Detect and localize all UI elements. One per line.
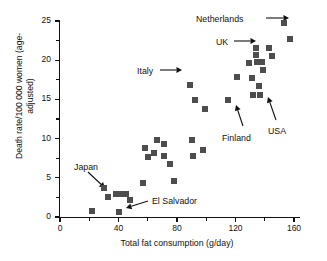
- y-axis-label: Death rate/100 000 women (age-adjusted): [14, 21, 36, 171]
- x-tick: [235, 218, 236, 223]
- data-point: [105, 194, 111, 200]
- y-tick: [55, 99, 60, 100]
- data-point: [187, 82, 193, 88]
- y-tick-minor: [56, 118, 59, 119]
- y-tick: [55, 138, 60, 139]
- data-point: [171, 178, 177, 184]
- x-tick-label: 40: [106, 224, 132, 233]
- x-tick-minor: [206, 218, 207, 221]
- x-tick: [118, 218, 119, 223]
- annotation-arrow-usa: [260, 89, 284, 128]
- y-tick-label: 5: [29, 173, 51, 182]
- data-point: [234, 74, 240, 80]
- x-tick: [176, 218, 177, 223]
- data-point: [259, 59, 265, 65]
- y-tick: [55, 216, 60, 217]
- data-point: [189, 137, 195, 143]
- x-tick-label: 0: [47, 224, 73, 233]
- x-tick: [293, 218, 294, 223]
- x-tick-minor: [147, 218, 148, 221]
- data-point: [161, 141, 167, 147]
- data-point: [266, 45, 272, 51]
- data-point: [260, 67, 266, 73]
- y-tick-label: 0: [29, 212, 51, 221]
- annotation-label-netherlands: Netherlands: [196, 14, 243, 24]
- data-point: [250, 92, 256, 98]
- data-point: [192, 97, 198, 103]
- annotation-arrow-japan: [80, 164, 113, 196]
- data-point: [225, 97, 231, 103]
- y-tick-minor: [56, 40, 59, 41]
- y-tick-minor: [56, 197, 59, 198]
- data-point: [257, 92, 263, 98]
- annotation-arrow-finland: [228, 97, 251, 134]
- data-point: [281, 20, 287, 26]
- data-point: [287, 36, 293, 42]
- data-point: [151, 150, 157, 156]
- x-tick-minor: [89, 218, 90, 221]
- data-point: [101, 185, 107, 191]
- annotation-arrow-italy: [152, 62, 190, 78]
- x-tick-label: 80: [164, 224, 190, 233]
- x-axis-label: Total fat consumption (g/day): [60, 238, 294, 248]
- data-point: [127, 197, 133, 203]
- data-point: [269, 53, 275, 59]
- annotation-label-finland: Finland: [222, 133, 251, 143]
- x-tick-label: 120: [223, 224, 249, 233]
- y-tick-minor: [56, 158, 59, 159]
- data-point: [167, 161, 173, 167]
- y-tick: [55, 177, 60, 178]
- data-point: [89, 208, 95, 214]
- annotation-label-el-salvador: El Salvador: [152, 196, 197, 206]
- data-point: [200, 147, 206, 153]
- data-point: [190, 153, 196, 159]
- data-point: [161, 153, 167, 159]
- data-point: [154, 137, 160, 143]
- annotation-label-italy: Italy: [137, 66, 153, 76]
- data-point: [249, 75, 255, 81]
- data-point: [256, 83, 262, 89]
- data-point: [140, 180, 146, 186]
- scatter-plot-figure: 051015202504080120160 Death rate/100 000…: [0, 0, 327, 261]
- annotation-arrow-netherlands: [258, 10, 297, 26]
- data-point: [246, 60, 252, 66]
- data-point: [253, 45, 259, 51]
- data-point: [116, 209, 122, 215]
- y-tick: [55, 60, 60, 61]
- y-tick: [55, 20, 60, 21]
- x-tick-minor: [264, 218, 265, 221]
- x-tick-label: 160: [281, 224, 307, 233]
- data-point: [142, 145, 148, 151]
- y-tick-minor: [56, 79, 59, 80]
- x-tick: [59, 218, 60, 223]
- data-point: [253, 52, 259, 58]
- data-point: [202, 106, 208, 112]
